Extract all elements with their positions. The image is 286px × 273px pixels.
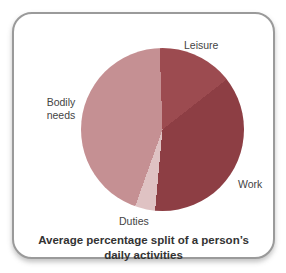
slice-label-work: Work [238, 178, 262, 191]
slice-label-bodily-needs: Bodily needs [38, 96, 84, 121]
slice-label-leisure: Leisure [184, 39, 218, 52]
screenshot-stage: Leisure Work Duties Bodily needs Average… [0, 0, 286, 273]
pie-chart [81, 48, 244, 211]
chart-title: Average percentage split of a person’s d… [26, 233, 262, 263]
chart-card: Leisure Work Duties Bodily needs Average… [12, 12, 275, 259]
slice-label-duties: Duties [119, 215, 149, 228]
